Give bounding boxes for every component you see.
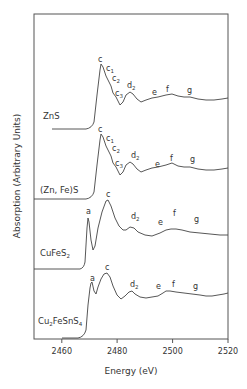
svg-text:c: c xyxy=(98,125,102,134)
plot-frame xyxy=(34,14,228,339)
x-axis-label: Energy (eV) xyxy=(104,366,157,376)
svg-text:f: f xyxy=(166,85,169,94)
svg-text:d2: d2 xyxy=(130,280,139,290)
svg-text:c: c xyxy=(98,55,102,64)
x-tick-label: 2480 xyxy=(107,347,127,356)
svg-text:d2: d2 xyxy=(127,81,136,91)
svg-text:a: a xyxy=(90,274,95,283)
svg-text:f: f xyxy=(172,280,175,289)
peak-labels-zns: c c1 c2 c3 d2 e f g xyxy=(98,55,192,99)
svg-text:c1: c1 xyxy=(106,64,114,74)
x-ticks xyxy=(62,339,228,343)
xanes-chart: 2460 2480 2500 2520 Energy (eV) Absorpti… xyxy=(0,0,247,389)
label-cufes2: CuFeS2 xyxy=(40,248,70,259)
svg-text:d2: d2 xyxy=(131,151,140,161)
peak-labels-cu2fesns4: a c d2 e f g xyxy=(90,263,198,291)
x-tick-label: 2500 xyxy=(162,347,182,356)
svg-text:e: e xyxy=(156,282,161,291)
curve-cufes2 xyxy=(34,200,228,269)
svg-text:g: g xyxy=(190,155,195,164)
label-cu2fesns4: Cu2FeSnS4 xyxy=(38,316,83,327)
x-tick-label: 2520 xyxy=(218,347,238,356)
curve-cu2fesns4 xyxy=(62,273,228,338)
svg-text:e: e xyxy=(155,160,160,169)
x-tick-label: 2460 xyxy=(52,347,72,356)
svg-text:c3: c3 xyxy=(115,89,123,99)
svg-text:g: g xyxy=(194,215,199,224)
svg-text:g: g xyxy=(193,282,198,291)
svg-text:e: e xyxy=(152,88,157,97)
curve-zns xyxy=(52,64,228,129)
svg-text:c: c xyxy=(105,263,109,272)
svg-text:a: a xyxy=(86,207,91,216)
svg-text:c1: c1 xyxy=(106,134,114,144)
svg-text:c: c xyxy=(106,190,110,199)
svg-text:e: e xyxy=(158,218,163,227)
svg-text:c3: c3 xyxy=(115,159,123,169)
label-znfes: (Zn, Fe)S xyxy=(40,185,78,195)
svg-text:d2: d2 xyxy=(131,212,140,222)
y-axis-label: Absorption (Arbitrary Units) xyxy=(12,114,22,238)
svg-text:c2: c2 xyxy=(112,74,120,84)
svg-text:f: f xyxy=(170,154,173,163)
svg-text:g: g xyxy=(187,86,192,95)
svg-text:c2: c2 xyxy=(112,144,120,154)
svg-text:f: f xyxy=(173,209,176,218)
label-zns: ZnS xyxy=(43,111,60,121)
